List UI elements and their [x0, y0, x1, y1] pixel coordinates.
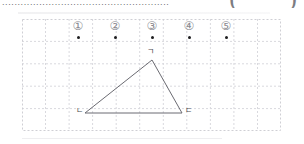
cropped-rule-bottom [22, 138, 222, 139]
vertex-label-apex: ㄱ [147, 48, 154, 56]
choice-point-1 [77, 36, 80, 39]
question-leader-dots: ........................................… [2, 0, 224, 5]
choice-point-2 [114, 36, 117, 39]
answer-bracket-close: ) [287, 0, 298, 8]
vertex-label-bottom-right: ㄷ [185, 107, 192, 115]
cropped-rule-top [18, 12, 270, 14]
answer-bracket-open: ( [228, 0, 239, 8]
choice-number-3: ③ [143, 20, 161, 33]
choice-marker-5[interactable]: ⑤ [217, 20, 235, 39]
worksheet-page: ........................................… [0, 0, 304, 144]
choice-number-4: ④ [180, 20, 198, 33]
choice-number-2: ② [106, 20, 124, 33]
choice-marker-4[interactable]: ④ [180, 20, 198, 39]
choice-number-5: ⑤ [217, 20, 235, 33]
choice-point-5 [225, 36, 228, 39]
choice-marker-1[interactable]: ① [69, 20, 87, 39]
grid-figure-panel: ① ② ③ ④ ⑤ ㄱ ㄴ ㄷ [22, 19, 281, 131]
vertex-label-bottom-left: ㄴ [76, 107, 83, 115]
choice-point-4 [188, 36, 191, 39]
choice-number-1: ① [69, 20, 87, 33]
choice-marker-2[interactable]: ② [106, 20, 124, 39]
choice-marker-3[interactable]: ③ [143, 20, 161, 39]
choice-point-3 [151, 36, 154, 39]
